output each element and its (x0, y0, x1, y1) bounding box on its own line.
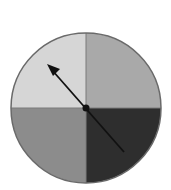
spinner-diagram (0, 0, 171, 190)
section-bottom-right (86, 108, 161, 183)
section-top-right (86, 33, 161, 108)
center-pivot (83, 105, 90, 112)
section-bottom-left (11, 108, 86, 183)
